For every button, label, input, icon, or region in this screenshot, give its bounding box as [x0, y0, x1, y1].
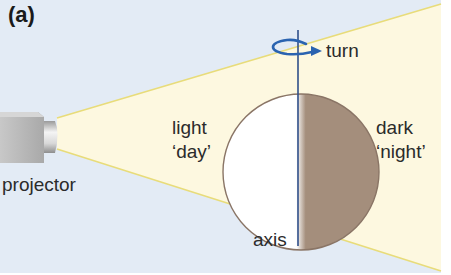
projector-label: projector: [2, 174, 76, 195]
dark-label: dark: [376, 117, 413, 138]
panel-label: (a): [8, 2, 35, 28]
globe: [223, 94, 379, 250]
light-label: light: [172, 117, 207, 138]
diagram-stage: (a) projector light ‘day’ dark ‘night’ t…: [0, 0, 451, 275]
axis-label: axis: [253, 229, 287, 250]
turn-label: turn: [326, 40, 359, 61]
night-label: ‘night’: [376, 141, 426, 162]
day-label: ‘day’: [172, 141, 211, 162]
